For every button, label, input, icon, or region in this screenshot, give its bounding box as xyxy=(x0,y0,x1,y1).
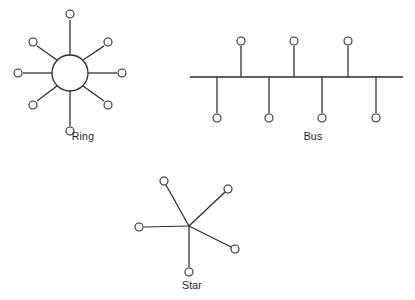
ring-node-sw-edge xyxy=(37,86,57,101)
star-node-bottom xyxy=(185,268,193,276)
bus-node-up-3 xyxy=(344,37,352,45)
ring-node-sw xyxy=(29,101,37,109)
bus-node-up-2 xyxy=(290,37,298,45)
star-topology-diagram xyxy=(135,177,239,276)
ring-node-n xyxy=(66,10,74,18)
star-topology-label: Star xyxy=(182,279,202,291)
star-node-upper-right-edge xyxy=(189,192,225,226)
ring-node-ne xyxy=(104,38,112,46)
ring-node-ne-edge xyxy=(83,46,104,60)
bus-topology-diagram xyxy=(190,37,403,122)
star-node-upper-right xyxy=(224,185,232,193)
ring-node-se-edge xyxy=(83,86,104,101)
bus-node-down-2 xyxy=(265,114,273,122)
bus-topology-label: Bus xyxy=(304,130,323,142)
bus-node-down-3 xyxy=(318,114,326,122)
bus-node-down-4 xyxy=(372,114,380,122)
ring-node-nw xyxy=(29,38,37,46)
ring-node-w xyxy=(14,69,22,77)
ring-node-se xyxy=(104,101,112,109)
star-node-upper-left xyxy=(160,177,168,185)
star-node-left-edge xyxy=(144,226,189,227)
star-node-upper-left-edge xyxy=(166,185,189,226)
star-node-lower-right-edge xyxy=(189,226,231,247)
bus-node-down-1 xyxy=(213,114,221,122)
topology-canvas: Ring Bus Star xyxy=(0,0,415,300)
ring-topology-diagram xyxy=(14,10,126,135)
ring-hub-circle xyxy=(52,55,88,91)
bus-node-up-1 xyxy=(237,37,245,45)
star-node-lower-right xyxy=(231,245,239,253)
network-topology-figure: Ring Bus Star xyxy=(0,0,415,300)
ring-topology-label: Ring xyxy=(72,130,94,142)
ring-node-e xyxy=(118,69,126,77)
star-node-left xyxy=(135,223,143,231)
ring-node-nw-edge xyxy=(37,46,57,60)
